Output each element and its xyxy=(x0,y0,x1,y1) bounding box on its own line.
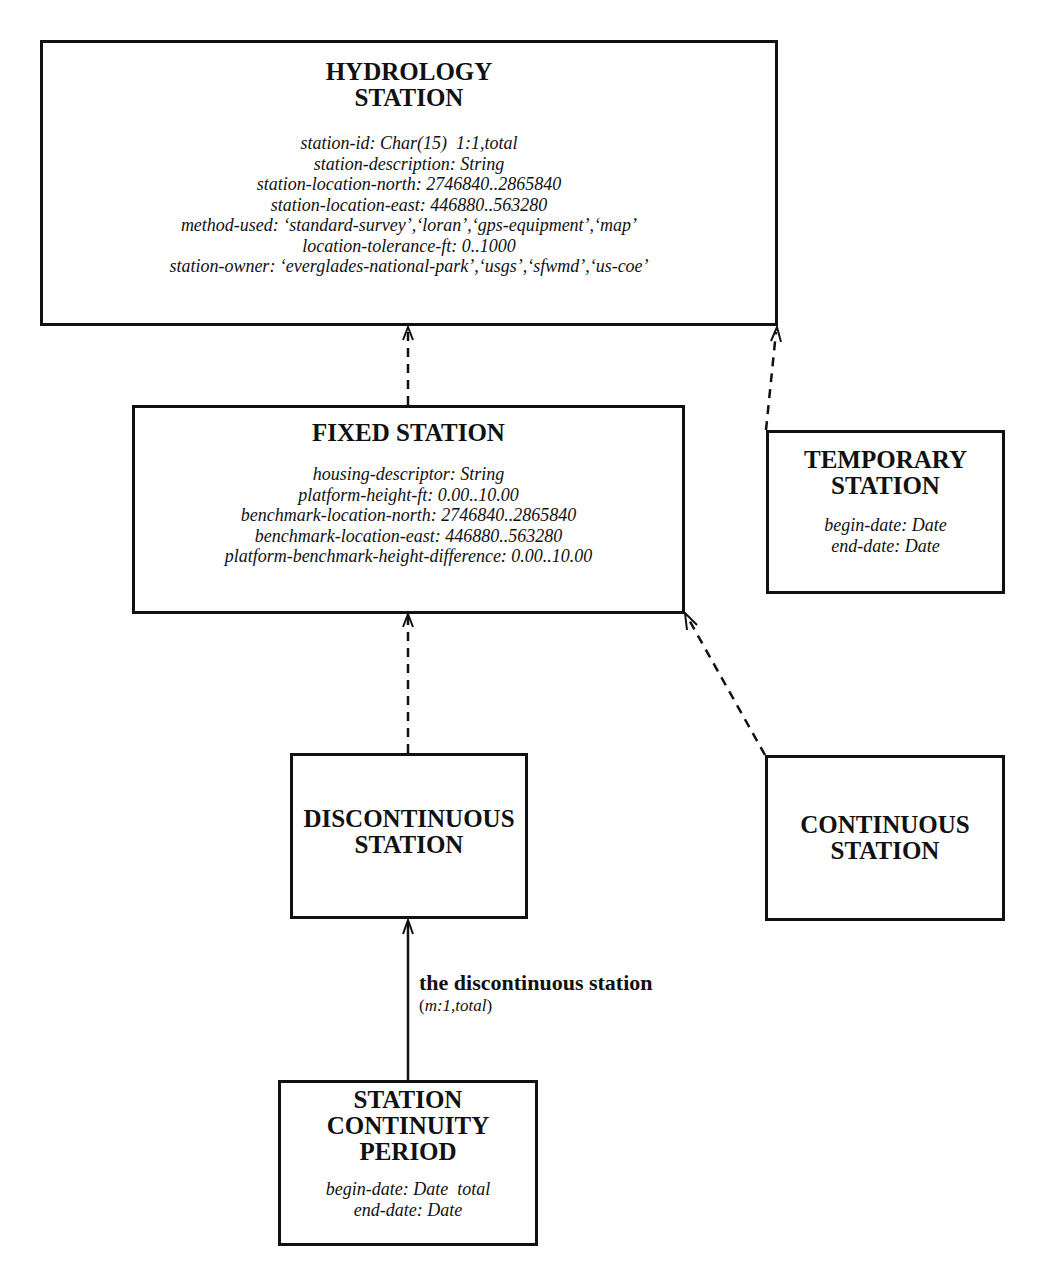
relationship-cardinality: (m:1,total) xyxy=(419,996,653,1016)
attribute-platform-height-ft: platform-height-ft: 0.00..10.00 xyxy=(225,485,593,506)
generalization-arrow-temporary-to-hydrology xyxy=(766,327,781,430)
entity-title: TEMPORARY STATION xyxy=(804,447,967,499)
generalization-arrow-fixed-to-hydrology xyxy=(403,327,413,405)
attribute-list: begin-date: Date end-date: Date xyxy=(824,515,946,556)
attribute-list: begin-date: Date total end-date: Date xyxy=(326,1179,490,1220)
cardinality-value: m:1,total xyxy=(425,996,487,1015)
entity-temporary-station[interactable]: TEMPORARY STATION begin-date: Date end-d… xyxy=(766,430,1005,594)
entity-title: DISCONTINUOUS STATION xyxy=(303,806,514,858)
attribute-benchmark-location-east: benchmark-location-east: 446880..563280 xyxy=(225,526,593,547)
attribute-list: station-id: Char(15) 1:1,total station-d… xyxy=(169,133,648,277)
attribute-begin-date: begin-date: Date total xyxy=(326,1179,490,1200)
attribute-location-tolerance-ft: location-tolerance-ft: 0..1000 xyxy=(169,236,648,257)
attribute-list: housing-descriptor: String platform-heig… xyxy=(225,464,593,567)
entity-fixed-station[interactable]: FIXED STATION housing-descriptor: String… xyxy=(132,405,685,614)
generalization-arrow-discontinuous-to-fixed xyxy=(403,614,413,753)
attribute-begin-date: begin-date: Date xyxy=(824,515,946,536)
entity-title: STATION CONTINUITY PERIOD xyxy=(327,1087,490,1165)
attribute-end-date: end-date: Date xyxy=(824,536,946,557)
entity-hydrology-station[interactable]: HYDROLOGY STATION station-id: Char(15) 1… xyxy=(40,40,778,326)
entity-continuous-station[interactable]: CONTINUOUS STATION xyxy=(765,755,1005,921)
generalization-arrow-continuous-to-fixed xyxy=(685,613,765,755)
entity-title: HYDROLOGY STATION xyxy=(326,59,493,111)
attribute-station-id: station-id: Char(15) 1:1,total xyxy=(169,133,648,154)
attribute-station-owner: station-owner: ‘everglades-national-park… xyxy=(169,256,648,277)
relationship-label: the discontinuous station (m:1,total) xyxy=(419,970,653,1016)
attribute-station-location-north: station-location-north: 2746840..2865840 xyxy=(169,174,648,195)
entity-title: FIXED STATION xyxy=(312,420,505,446)
cardinality-close-paren: ) xyxy=(487,996,493,1015)
attribute-method-used: method-used: ‘standard-survey’,‘loran’,‘… xyxy=(169,215,648,236)
attribute-benchmark-location-north: benchmark-location-north: 2746840..28658… xyxy=(225,505,593,526)
attribute-station-description: station-description: String xyxy=(169,154,648,175)
entity-station-continuity-period[interactable]: STATION CONTINUITY PERIOD begin-date: Da… xyxy=(278,1080,538,1246)
attribute-end-date: end-date: Date xyxy=(326,1200,490,1221)
relationship-name: the discontinuous station xyxy=(419,970,653,996)
attribute-station-location-east: station-location-east: 446880..563280 xyxy=(169,195,648,216)
entity-title: CONTINUOUS STATION xyxy=(800,812,969,864)
attribute-housing-descriptor: housing-descriptor: String xyxy=(225,464,593,485)
attribute-platform-benchmark-height-difference: platform-benchmark-height-difference: 0.… xyxy=(225,546,593,567)
association-arrow-period-to-discontinuous xyxy=(403,920,413,1080)
entity-discontinuous-station[interactable]: DISCONTINUOUS STATION xyxy=(290,753,528,919)
